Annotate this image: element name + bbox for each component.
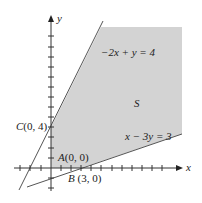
region-label-s: S [134, 98, 140, 109]
y-axis-arrow-icon [48, 15, 54, 22]
line-label-neg2x-plus-y: −2x + y = 4 [101, 47, 155, 58]
point-label-a: A(0, 0) [58, 152, 89, 163]
y-axis-label: y [57, 13, 62, 24]
point-label-b: B (3, 0) [68, 173, 101, 184]
x-axis-arrow-icon [176, 165, 183, 171]
x-axis [14, 165, 183, 171]
line-label-x-minus-3y: x − 3y = 3 [125, 131, 172, 142]
x-axis-label: x [186, 162, 191, 173]
point-label-c: C(0, 4) [16, 121, 47, 132]
